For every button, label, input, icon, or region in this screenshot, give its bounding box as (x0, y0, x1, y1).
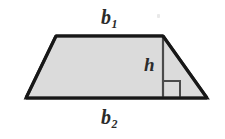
bottom-base-label-subscript: 2 (112, 117, 118, 131)
top-base-label-subscript: 1 (112, 17, 118, 31)
height-label: h (144, 55, 155, 74)
height-label-base: h (144, 54, 155, 75)
bottom-base-label-base: b (101, 106, 111, 128)
top-base-label-base: b (101, 6, 111, 28)
top-base-label: b1 (101, 7, 118, 30)
scan-artifact-speck (157, 14, 160, 18)
bottom-base-label: b2 (101, 107, 118, 130)
trapezoid-figure: b1 b2 h (0, 0, 225, 139)
